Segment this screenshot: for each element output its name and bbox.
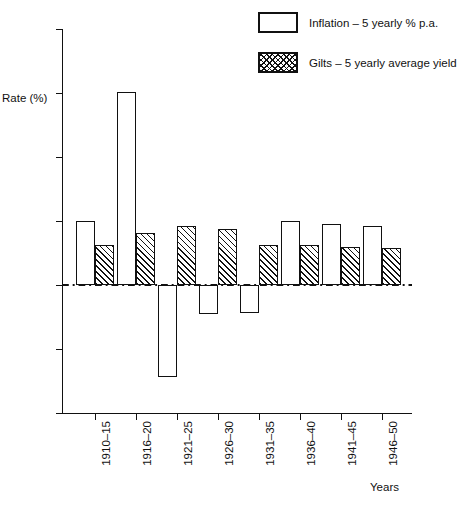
bar-gilts-1946–50 [382,248,401,285]
y-tick [56,221,62,222]
x-tick [382,413,383,420]
bar-gilts-1910–15 [95,245,114,285]
bar-gilts-1931–35 [259,245,278,285]
x-tick [136,413,137,420]
x-tick-label: 1926–30 [223,421,235,466]
x-tick [218,413,219,420]
x-tick [95,413,96,420]
bar-inflation-1931–35 [240,285,259,313]
y-axis-line [62,29,63,413]
bar-inflation-1936–40 [281,221,300,285]
x-tick-label: 1936–40 [305,421,317,466]
y-tick [56,93,62,94]
bar-gilts-1941–45 [341,247,360,285]
x-tick-label: 1921–25 [182,421,194,466]
x-tick [177,413,178,420]
y-tick [56,157,62,158]
plot-area: 20151050–5–10 1910–151916–201921–251926–… [62,29,412,413]
y-tick [56,285,62,286]
y-tick [56,413,62,414]
bar-gilts-1921–25 [177,226,196,285]
bar-inflation-1916–20 [117,92,136,285]
x-tick-label: 1941–45 [346,421,358,466]
x-axis-title: Years [370,481,399,493]
bar-inflation-1921–25 [158,285,177,377]
bar-inflation-1910–15 [76,221,95,285]
x-tick-label: 1916–20 [141,421,153,466]
x-tick [341,413,342,420]
x-axis-line [62,413,412,414]
x-tick-label: 1910–15 [100,421,112,466]
bar-inflation-1941–45 [322,224,341,285]
bar-inflation-1926–30 [199,285,218,314]
bar-gilts-1926–30 [218,229,237,285]
bar-inflation-1946–50 [363,226,382,285]
x-tick [259,413,260,420]
y-axis-title: Rate (%) [2,92,47,104]
x-tick [300,413,301,420]
legend-label-inflation: Inflation – 5 yearly % p.a. [309,17,438,29]
y-tick [56,349,62,350]
clipped-header-text [46,0,346,4]
x-tick-label: 1931–35 [264,421,276,466]
y-tick [56,29,62,30]
bar-gilts-1936–40 [300,245,319,285]
x-tick-label: 1946–50 [387,421,399,466]
bar-gilts-1916–20 [136,233,155,285]
